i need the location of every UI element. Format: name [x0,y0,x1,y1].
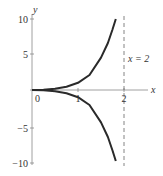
tick-label-x1: 1 [76,93,81,104]
tick-label-x0: 0 [35,93,40,104]
x-axis-label: x [150,84,156,95]
tick-label-yn10: −10 [12,158,28,169]
asymptote-label: x = 2 [127,53,149,64]
tick-label-y10: 10 [18,14,28,25]
tick-label-yn5: −5 [17,123,28,134]
tick-label-y5: 5 [23,49,28,60]
lower-curve [32,90,116,161]
y-axis-label: y [32,4,38,15]
chart: y x 10 5 −5 −10 0 1 2 x = 2 [0,0,163,176]
tick-label-x2: 2 [122,93,127,104]
upper-curve [32,19,116,90]
